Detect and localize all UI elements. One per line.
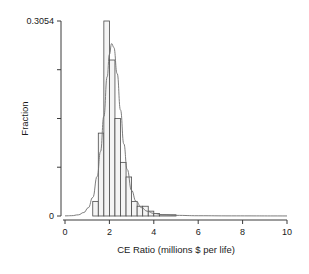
x-axis-tick-label: 2 <box>107 227 112 237</box>
chart-labels: 02468100.30540CE Ratio (millions $ per l… <box>19 16 292 255</box>
histogram-bar <box>93 201 99 216</box>
y-axis-tick-label-max: 0.3054 <box>26 16 54 26</box>
x-axis-title: CE Ratio (millions $ per life) <box>117 244 235 255</box>
chart-axes <box>57 21 287 224</box>
y-axis-title: Fraction <box>19 101 30 135</box>
histogram-bar <box>121 162 127 216</box>
x-axis-tick-label: 0 <box>62 227 67 237</box>
y-axis-tick-label-min: 0 <box>49 211 54 221</box>
histogram-bar <box>115 119 121 217</box>
x-axis-tick-label: 8 <box>240 227 245 237</box>
x-axis-tick-label: 4 <box>151 227 156 237</box>
x-axis-tick-label: 10 <box>282 227 292 237</box>
chart-figure: 02468100.30540CE Ratio (millions $ per l… <box>0 0 309 274</box>
histogram-bar <box>104 21 110 216</box>
histogram-bar <box>98 133 104 216</box>
chart-svg: 02468100.30540CE Ratio (millions $ per l… <box>0 0 309 274</box>
histogram-bar <box>132 201 138 216</box>
histogram-bar <box>109 60 115 216</box>
histogram-bar <box>126 177 132 216</box>
x-axis-tick-label: 6 <box>196 227 201 237</box>
histogram-bars <box>93 21 176 216</box>
